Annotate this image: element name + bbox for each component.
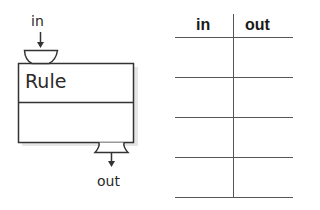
output-arrowhead-icon <box>108 161 115 167</box>
table-cell-out-2[interactable] <box>234 78 293 117</box>
table-cell-out-4[interactable] <box>234 158 293 197</box>
input-hopper-icon <box>25 51 58 64</box>
output-hopper-icon <box>95 143 128 153</box>
table-cell-out-3[interactable] <box>234 118 293 157</box>
input-arrowhead-icon <box>37 42 44 48</box>
input-label: in <box>31 14 44 28</box>
table-header-out: out <box>245 17 270 33</box>
output-label: out <box>97 174 120 188</box>
table-cell-in-2[interactable] <box>176 78 233 117</box>
table-header-in: in <box>196 17 210 33</box>
table-cell-in-3[interactable] <box>176 118 233 157</box>
table-cell-out-1[interactable] <box>234 38 293 77</box>
table-cell-in-4[interactable] <box>176 158 233 197</box>
table-cell-in-1[interactable] <box>176 38 233 77</box>
rule-title: Rule <box>25 72 66 91</box>
